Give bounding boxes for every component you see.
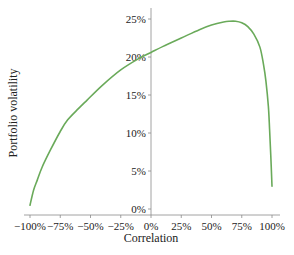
x-axis: −100%−75%−50%−25%0%25%50%75%100% [14,215,285,232]
x-tick-label: −50% [77,220,103,232]
y-tick-label: 15% [126,89,146,101]
y-axis-title: Portfolio volatility [6,69,20,158]
x-tick-label: 50% [201,220,221,232]
y-tick-label: 0% [131,203,146,215]
chart: 0%5%10%15%20%25% −100%−75%−50%−25%0%25%5… [0,0,294,255]
x-tick-label: −75% [47,220,73,232]
y-tick-label: 10% [126,127,146,139]
y-tick-label: 25% [126,13,146,25]
y-tick-label: 5% [131,165,146,177]
y-axis: 0%5%10%15%20%25% [126,8,151,215]
x-tick-label: −100% [14,220,46,232]
x-tick-label: 100% [259,220,285,232]
x-tick-label: 75% [232,220,252,232]
x-axis-title: Correlation [124,231,179,245]
